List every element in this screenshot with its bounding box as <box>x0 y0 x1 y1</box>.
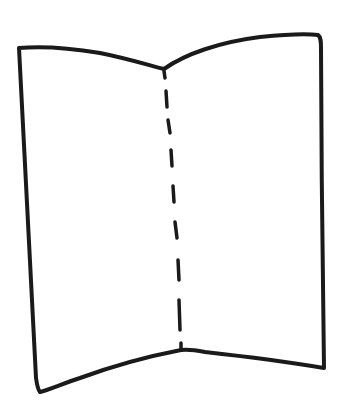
paper-outline <box>19 34 324 392</box>
diagram-canvas <box>0 0 341 414</box>
fold-line <box>164 71 181 350</box>
folded-paper-drawing <box>0 0 341 414</box>
